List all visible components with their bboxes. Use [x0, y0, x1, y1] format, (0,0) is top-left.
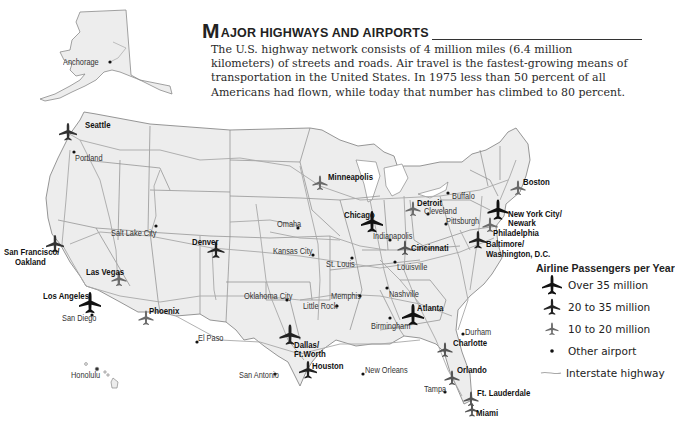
- label-anchorage: Anchorage: [63, 57, 99, 67]
- title-rest: AJOR HIGHWAYS AND AIRPORTS: [221, 27, 429, 40]
- legend-label: Interstate highway: [566, 367, 665, 379]
- label-minneapolis: Minneapolis: [328, 172, 373, 182]
- label-el-paso: El Paso: [198, 333, 223, 343]
- title-rule: [432, 27, 642, 40]
- label-cincinnati: Cincinnati: [411, 243, 449, 253]
- legend-label: Over 35 million: [568, 279, 648, 291]
- label-ft-worth: Ft.Worth: [294, 349, 326, 359]
- header: M AJOR HIGHWAYS AND AIRPORTS The U.S. hi…: [202, 22, 642, 100]
- airplane-small-icon: [541, 318, 563, 340]
- label-st-louis: St. Louis: [326, 259, 355, 269]
- description: The U.S. highway network consists of 4 m…: [211, 43, 631, 100]
- legend-item: Other airport: [540, 340, 656, 362]
- label-honolulu: Honolulu: [71, 370, 100, 380]
- legend-label: 20 to 35 million: [568, 301, 650, 313]
- label-chicago: Chicago: [344, 210, 375, 220]
- title-initial: M: [202, 22, 220, 40]
- label-durham: Durham: [465, 327, 491, 337]
- label-miami: Miami: [476, 408, 498, 418]
- label-tampa: Tampa: [424, 384, 446, 394]
- label-orlando: Orlando: [457, 365, 487, 375]
- label-nashville: Nashville: [389, 289, 419, 299]
- label-indianapolis: Indianapolis: [373, 231, 412, 241]
- page-title: M AJOR HIGHWAYS AND AIRPORTS: [202, 22, 642, 40]
- legend-title: Airline Passengers per Year: [536, 262, 656, 274]
- label-boston: Boston: [523, 177, 550, 187]
- label-ft-lauderdale: Ft. Lauderdale: [477, 388, 530, 398]
- label-philadelphia: Philadelphia: [493, 228, 539, 238]
- label-oklahoma-city: Oklahoma City: [244, 291, 292, 301]
- label-birmingham: Birmingham: [371, 321, 410, 331]
- label-washington-dc: Washington, D.C.: [486, 249, 550, 259]
- label-new-orleans: New Orleans: [365, 365, 408, 375]
- label-seattle: Seattle: [85, 120, 111, 130]
- legend-item: 20 to 35 million: [540, 296, 656, 318]
- legend-item: Interstate highway: [540, 362, 656, 384]
- alaska: [40, 10, 172, 101]
- label-omaha: Omaha: [277, 219, 301, 229]
- label-pittsburgh: Pittsburgh: [446, 216, 479, 226]
- label-atlanta: Atlanta: [417, 303, 443, 313]
- label-houston: Houston: [312, 361, 344, 371]
- label-charlotte: Charlotte: [453, 338, 487, 348]
- label-san-diego: San Diego: [62, 313, 96, 323]
- contiguous-us: [46, 112, 530, 404]
- label-las-vegas: Las Vegas: [86, 267, 124, 277]
- label-portland: Portland: [75, 153, 102, 163]
- label-denver: Denver: [192, 237, 218, 247]
- airplane-large-icon: [541, 274, 563, 296]
- label-kansas-city: Kansas City: [273, 246, 312, 256]
- label-oakland: Oakland: [15, 257, 46, 267]
- label-little-rock: Little Rock: [303, 301, 337, 311]
- highway-line-icon: [540, 362, 562, 384]
- label-phoenix: Phoenix: [149, 306, 179, 316]
- airplane-medium-icon: [541, 296, 563, 318]
- legend-item: 10 to 20 million: [540, 318, 656, 340]
- dot-icon: [541, 340, 563, 362]
- legend-item: Over 35 million: [540, 274, 656, 296]
- label-louisville: Louisville: [397, 262, 427, 272]
- label-buffalo: Buffalo: [452, 191, 475, 201]
- legend-label: Other airport: [568, 345, 636, 357]
- label-memphis: Memphis: [331, 291, 361, 301]
- label-los-angeles: Los Angeles: [43, 291, 89, 301]
- label-salt-lake-city: Salt Lake City: [111, 228, 157, 238]
- label-san-antonio: San Antonio: [239, 370, 279, 380]
- legend-label: 10 to 20 million: [568, 323, 650, 335]
- label-cleveland: Cleveland: [424, 206, 457, 216]
- legend: Airline Passengers per Year Over 35 mill…: [536, 262, 656, 384]
